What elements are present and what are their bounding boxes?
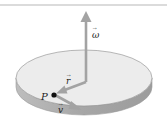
v-label: v xyxy=(58,105,63,115)
omega-arrowhead xyxy=(81,11,92,22)
r-label: r xyxy=(66,76,71,86)
omega-label: ω xyxy=(92,30,100,40)
point-p-dot xyxy=(51,92,56,97)
rotating-disc-diagram: P ω → r → v → xyxy=(0,0,167,137)
disc-top xyxy=(16,50,152,106)
point-p-label: P xyxy=(40,91,48,102)
v-accent: → xyxy=(59,101,63,107)
omega-accent: → xyxy=(93,25,97,31)
r-accent: → xyxy=(67,72,71,78)
